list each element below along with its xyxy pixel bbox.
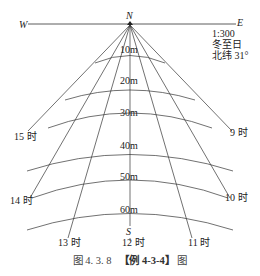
figure-caption: 图 4. 3. 8 【例 4-3-4】 图 (0, 252, 260, 267)
figure-number: 图 4. 3. 8 (73, 255, 112, 266)
hour-label-14: 14 时 (10, 195, 33, 206)
hour-label-9: 9 时 (230, 127, 248, 138)
distance-label-50m: 50m (120, 171, 138, 182)
example-ref: 【例 4-3-4】 (119, 255, 174, 266)
date-text: 冬至日 (212, 39, 249, 50)
origin-marker-icon (127, 21, 133, 25)
hour-label-11: 11 时 (188, 237, 210, 248)
north-label: N (126, 10, 133, 21)
south-label: S (126, 226, 131, 237)
distance-label-60m: 60m (120, 204, 138, 215)
distance-label-10m: 10m (120, 44, 138, 55)
distance-label-40m: 40m (120, 140, 138, 151)
caption-suffix: 图 (177, 255, 187, 266)
west-label: W (19, 19, 27, 30)
hour-label-15: 15 时 (14, 131, 37, 142)
hour-label-10: 10 时 (225, 192, 248, 203)
hour-line-14 (30, 25, 130, 198)
hour-label-12: 12 时 (122, 237, 145, 248)
latitude-text: 北纬 31° (212, 50, 249, 61)
diagram-info: 1:300 冬至日 北纬 31° (212, 28, 249, 61)
east-label: E (237, 17, 243, 28)
hour-label-13: 13 时 (58, 237, 81, 248)
distance-label-30m: 30m (120, 107, 138, 118)
distance-label-20m: 20m (120, 75, 138, 86)
scale-text: 1:300 (212, 28, 249, 39)
